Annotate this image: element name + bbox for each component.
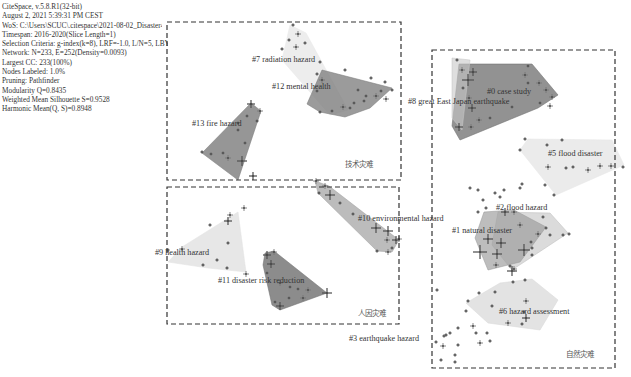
node-marker[interactable] — [280, 47, 284, 51]
node-marker[interactable] — [453, 360, 457, 364]
node-marker[interactable] — [439, 358, 443, 362]
node-marker[interactable] — [453, 353, 457, 357]
node-marker[interactable] — [435, 288, 439, 292]
node-marker[interactable] — [498, 195, 502, 199]
cluster-label-3[interactable]: #3 earthquake hazard — [349, 334, 419, 343]
group-label-tech: 技术灾难 — [345, 159, 374, 169]
cluster-label-0[interactable]: #0 case study — [487, 87, 532, 96]
node-marker[interactable] — [464, 309, 468, 313]
group-label-natural: 自然灾难 — [566, 349, 595, 359]
node-marker[interactable] — [547, 103, 553, 109]
node-marker[interactable] — [468, 186, 472, 190]
node-marker[interactable] — [322, 288, 332, 298]
cluster-label-7[interactable]: #7 radiation hazard — [252, 55, 315, 64]
node-marker[interactable] — [456, 343, 460, 347]
node-marker[interactable] — [488, 339, 492, 343]
cluster-6-hull[interactable] — [466, 279, 558, 330]
cluster-label-10[interactable]: #10 environmental hazard — [358, 214, 443, 223]
cluster-label-12[interactable]: #12 mental health — [272, 82, 331, 91]
node-marker[interactable] — [493, 191, 497, 195]
node-marker[interactable] — [440, 343, 446, 349]
node-marker[interactable] — [343, 68, 347, 72]
node-marker[interactable] — [485, 331, 489, 335]
node-marker[interactable] — [518, 186, 522, 190]
cluster-label-1[interactable]: #1 natural disaster — [452, 226, 512, 235]
node-marker[interactable] — [249, 172, 257, 180]
node-marker[interactable] — [383, 80, 387, 84]
node-marker[interactable] — [208, 223, 212, 227]
node-marker[interactable] — [520, 182, 524, 186]
group-label-human: 人因灾难 — [358, 308, 387, 318]
node-marker[interactable] — [241, 205, 247, 211]
cluster-label-2[interactable]: #2 flood hazard — [496, 203, 547, 212]
node-marker[interactable] — [456, 326, 460, 330]
node-marker[interactable] — [434, 340, 438, 344]
node-marker[interactable] — [481, 198, 485, 202]
cluster-label-9[interactable]: #9 health hazard — [155, 248, 209, 257]
cluster-label-11[interactable]: #11 disaster risk reduction — [218, 276, 304, 285]
cluster-13-hull[interactable] — [202, 103, 261, 180]
node-marker[interactable] — [477, 340, 483, 346]
node-marker[interactable] — [523, 137, 527, 141]
node-marker[interactable] — [369, 76, 373, 80]
node-marker[interactable] — [474, 331, 478, 335]
cluster-label-8[interactable]: #8 great East Japan earthquake — [408, 97, 510, 106]
node-marker[interactable] — [502, 188, 506, 192]
node-marker[interactable] — [383, 96, 389, 102]
cluster-9-hull[interactable] — [168, 212, 246, 272]
node-marker[interactable] — [470, 323, 476, 329]
cluster-network-canvas[interactable]: #0 case study#8 great East Japan earthqu… — [0, 0, 631, 377]
node-marker[interactable] — [476, 210, 480, 214]
node-marker[interactable] — [543, 183, 547, 187]
cluster-label-13[interactable]: #13 fire hazard — [192, 119, 242, 128]
cluster-label-6[interactable]: #6 hazard assessment — [499, 307, 570, 316]
cluster-label-5[interactable]: #5 flood disaster — [548, 149, 603, 158]
node-marker[interactable] — [476, 188, 480, 192]
node-marker[interactable] — [484, 206, 488, 210]
node-marker[interactable] — [448, 331, 452, 335]
